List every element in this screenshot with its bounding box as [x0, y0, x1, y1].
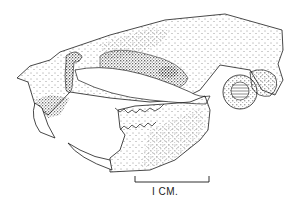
- orbit-dark-spot: [158, 66, 178, 78]
- scale-bar: [135, 176, 209, 182]
- scale-bar-label: I CM.: [152, 186, 212, 197]
- skull-illustration: [0, 0, 297, 207]
- lower-incisor: [68, 143, 112, 170]
